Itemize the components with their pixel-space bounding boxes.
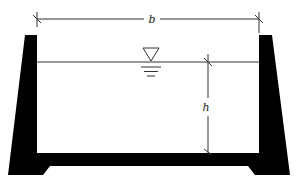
depth-dimension: h [202,54,212,155]
depth-label-h: h [202,101,209,114]
width-dimension: b [33,12,263,33]
channel-structure [8,35,290,175]
bottom-slab [37,153,259,166]
width-label-b: b [148,13,155,26]
channel-cross-section-diagram: b h [0,0,302,189]
right-wall [240,35,290,175]
